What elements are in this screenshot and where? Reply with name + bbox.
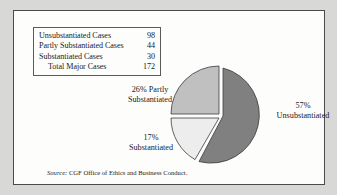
table-row-label: Substantiated Cases [39, 52, 103, 62]
source-label: Source: [47, 169, 67, 176]
callout-substantiated: 17% Substantiated [114, 133, 188, 154]
table-row-value: 30 [139, 52, 155, 62]
table-row-value: 44 [139, 41, 155, 51]
table-row: Unsubstantiated Cases 98 [39, 31, 155, 41]
source-note: Source: CGF Office of Ethics and Busines… [47, 168, 187, 177]
callout-unsubstantiated-line2: Unsubstantiated [266, 111, 337, 121]
callout-unsubstantiated-line1: 57% [266, 101, 337, 111]
callout-partly-line1: 26% Partly [112, 85, 188, 95]
case-counts-table: Unsubstantiated Cases 98 Partly Substant… [33, 27, 161, 76]
callout-partly-line2: Substantiated [112, 95, 188, 105]
table-row-value: 172 [139, 62, 155, 72]
pie-chart-svg [162, 59, 282, 174]
table-row-label: Partly Substantiated Cases [39, 41, 124, 51]
table-row-total: Total Major Cases 172 [39, 62, 155, 72]
callout-substantiated-line2: Substantiated [114, 143, 188, 153]
callout-partly-substantiated: 26% Partly Substantiated [112, 85, 188, 106]
table-row-value: 98 [139, 31, 155, 41]
table-row-label: Total Major Cases [39, 62, 106, 72]
pie-chart [162, 59, 282, 174]
callout-unsubstantiated: 57% Unsubstantiated [266, 101, 337, 122]
table-row: Substantiated Cases 30 [39, 52, 155, 62]
table-row-label: Unsubstantiated Cases [39, 31, 111, 41]
table-row: Partly Substantiated Cases 44 [39, 41, 155, 51]
source-text: CGF Office of Ethics and Business Conduc… [69, 169, 187, 176]
figure-frame: Unsubstantiated Cases 98 Partly Substant… [13, 10, 325, 185]
callout-substantiated-line1: 17% [114, 133, 188, 143]
